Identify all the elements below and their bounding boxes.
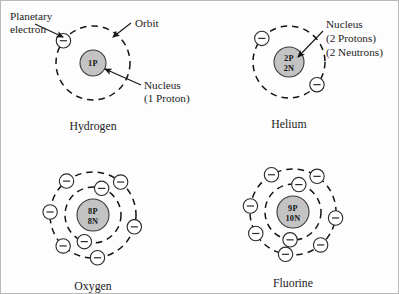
electron-oxygen-s2-4 [56,239,70,253]
nucleus-label-oxygen-line-2: 8N [88,217,99,226]
electron-hydrogen-s1-1 [56,34,70,48]
atom-hydrogen: 1P [56,26,130,100]
atom-helium: 2P2N [253,26,325,98]
electron-fluorine-s1-1 [292,177,306,191]
nucleus-label-hydrogen-line-1: 1P [88,59,98,68]
element-name-fluorine: Fluorine [273,276,313,290]
electron-fluorine-s2-5 [278,247,292,261]
electron-helium-s1-1 [255,31,269,45]
electron-oxygen-s2-2 [59,174,73,188]
hydrogen-nucleus-label-line2: (1 Proton) [144,92,190,105]
electron-oxygen-s1-2 [77,234,91,248]
electron-oxygen-s2-3 [43,205,57,219]
electron-oxygen-s1-1 [94,181,108,195]
element-name-helium: Helium [271,117,306,131]
atom-fluorine: 9P10N [243,168,343,262]
orbit-label: Orbit [135,17,160,29]
nucleus-label-helium-line-1: 2P [284,54,294,63]
nucleus-label-fluorine-line-1: 9P [288,204,298,213]
electron-fluorine-s2-4 [249,226,263,240]
figure-canvas: 1P2P2N8P8N9P10N Planetary electron Orbit… [0,0,399,294]
atom-oxygen: 8P8N [43,172,142,265]
electron-fluorine-s2-3 [243,199,257,213]
atom-diagram: 1P2P2N8P8N9P10N Planetary electron Orbit… [1,1,399,294]
nucleus-label-fluorine-line-2: 10N [285,214,300,223]
planetary-electron-label-line1: Planetary [10,10,53,22]
electron-fluorine-s2-1 [310,169,324,183]
electron-fluorine-s2-6 [313,238,327,252]
electron-oxygen-s2-6 [127,220,141,234]
helium-nucleus-label-line3: (2 Neutrons) [326,46,383,59]
element-name-oxygen: Oxygen [74,279,111,293]
electron-fluorine-s1-2 [283,233,297,247]
element-name-hydrogen: Hydrogen [69,119,116,133]
electron-fluorine-s2-7 [328,211,342,225]
electron-oxygen-s2-5 [90,251,104,265]
helium-nucleus-label-line1: Nucleus [326,18,363,30]
helium-nucleus-leader [298,31,323,57]
helium-nucleus-label-line2: (2 Protons) [326,32,376,45]
hydrogen-nucleus-leader [105,69,141,85]
atoms-layer: 1P2P2N8P8N9P10N [43,26,343,265]
nucleus-label-oxygen-line-1: 8P [88,207,98,216]
hydrogen-nucleus-label-line1: Nucleus [144,79,181,91]
planetary-electron-label-line2: electron [10,23,46,35]
orbit-leader [113,23,131,37]
electron-helium-s1-2 [310,77,324,91]
electron-oxygen-s2-1 [113,175,127,189]
electron-fluorine-s2-2 [264,168,278,182]
nucleus-label-helium-line-2: 2N [284,64,295,73]
